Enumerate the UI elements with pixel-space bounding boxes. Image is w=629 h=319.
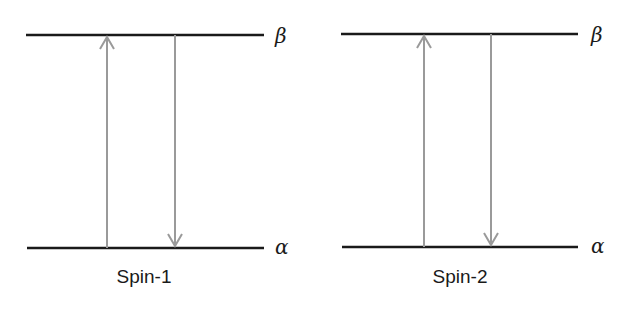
down-arrow-icon (168, 35, 182, 246)
panel-spin-1: β α Spin-1 (26, 24, 289, 287)
up-arrow-icon (100, 37, 114, 248)
panel-spin-2: β α Spin-2 (341, 23, 605, 287)
down-arrow-icon (484, 34, 498, 245)
energy-level-diagram: β α Spin-1 β α Spin-2 (0, 0, 629, 319)
beta-label: β (274, 24, 287, 48)
alpha-label: α (591, 234, 605, 258)
panel-caption: Spin-1 (117, 266, 172, 287)
alpha-label: α (275, 235, 289, 259)
panel-caption: Spin-2 (433, 266, 488, 287)
up-arrow-icon (417, 36, 431, 247)
beta-label: β (590, 23, 603, 47)
